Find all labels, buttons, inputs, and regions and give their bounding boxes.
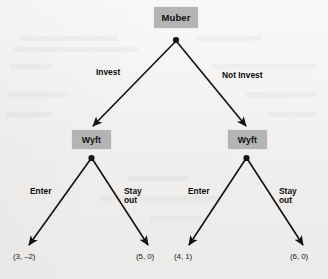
payoff-not-invest-stay-out: (6, 0) [290,252,308,261]
edge-label-right-enter: Enter [188,187,209,196]
decision-node-wyft-left[interactable] [88,155,94,161]
edge-label-right-stay-out: Stay out [279,187,297,206]
edge-label-invest: Invest [96,68,120,77]
payoff-invest-stay-out: (5, 0) [136,252,154,261]
payoff-invest-enter: (3, –2) [13,252,35,261]
edge-label-left-stay-out: Stay out [124,187,142,206]
edge-left-enter [29,160,90,245]
game-tree-canvas [0,0,328,279]
edge-invest [93,42,175,126]
decision-node-wyft-right[interactable] [243,155,249,161]
edge-label-left-enter: Enter [30,187,51,196]
payoff-not-invest-enter: (4, 1) [174,252,192,261]
edge-right-enter [189,160,245,245]
edge-not-invest [177,42,246,126]
node-wyft-right[interactable]: Wyft [228,130,267,149]
decision-node-root[interactable] [173,37,179,43]
edge-label-not-invest: Not Invest [222,71,263,80]
node-muber[interactable]: Muber [154,7,198,28]
node-wyft-left[interactable]: Wyft [72,130,111,149]
